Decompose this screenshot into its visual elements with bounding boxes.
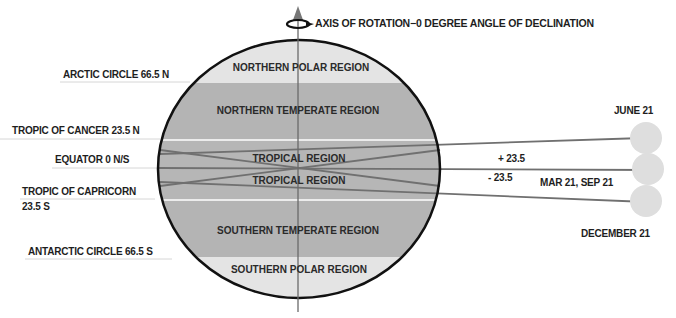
sun-december — [630, 185, 662, 217]
region-northern-polar: NORTHERN POLAR REGION — [233, 62, 370, 73]
region-southern-temperate: SOUTHERN TEMPERATE REGION — [217, 225, 379, 236]
angle-plus: + 23.5 — [498, 153, 525, 164]
region-southern-polar: SOUTHERN POLAR REGION — [231, 264, 367, 275]
axis-title: AXIS OF ROTATION−0 DEGREE ANGLE OF DECLI… — [315, 17, 594, 29]
region-northern-temperate: NORTHERN TEMPERATE REGION — [217, 105, 380, 116]
label-december-21: DECEMBER 21 — [581, 228, 650, 239]
label-equator: EQUATOR 0 N/S — [55, 154, 129, 165]
tropic-of-cancer-line — [150, 139, 450, 141]
region-tropical-south: TROPICAL REGION — [252, 175, 345, 186]
angle-minus: - 23.5 — [488, 172, 512, 183]
rotation-arrow-icon — [287, 6, 314, 28]
region-tropical-north: TROPICAL REGION — [252, 153, 345, 164]
label-equinox: MAR 21, SEP 21 — [540, 177, 613, 188]
label-tropic-of-cancer: TROPIC OF CANCER 23.5 N — [12, 125, 140, 136]
earth-zones-diagram: AXIS OF ROTATION−0 DEGREE ANGLE OF DECLI… — [0, 0, 676, 318]
label-arctic-circle: ARCTIC CIRCLE 66.5 N — [63, 69, 169, 80]
label-june-21: JUNE 21 — [614, 105, 653, 116]
sun-june — [630, 122, 662, 154]
northern-polar-band — [150, 36, 450, 83]
sun-equinox — [632, 153, 664, 185]
label-tropic-of-capricorn: TROPIC OF CAPRICORN — [22, 186, 136, 197]
label-tropic-of-capricorn-degrees: 23.5 S — [22, 201, 50, 212]
tropic-of-capricorn-line — [150, 199, 450, 201]
label-antarctic-circle: ANTARCTIC CIRCLE 66.5 S — [28, 246, 153, 257]
sun-positions — [630, 122, 664, 217]
